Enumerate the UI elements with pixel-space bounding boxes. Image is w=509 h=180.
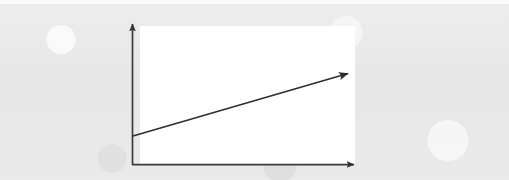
graph-svg — [0, 0, 509, 180]
trend-line-arrow — [133, 74, 348, 137]
figure-root — [0, 0, 509, 180]
